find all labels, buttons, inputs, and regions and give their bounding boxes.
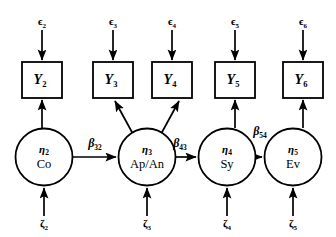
path-label-beta54: β54 xyxy=(252,124,267,139)
sem-path-diagram: Y2 Y3 Y4 Y5 Y6 η2 Co η3 Ap/An η4 Sy η5 E… xyxy=(0,0,336,237)
error-label-eps4: ϵ4 xyxy=(168,15,177,30)
error-label-eps2: ϵ2 xyxy=(38,15,47,30)
diagram-canvas: Y2 Y3 Y4 Y5 Y6 η2 Co η3 Ap/An η4 Sy η5 E… xyxy=(0,0,336,237)
disturbance-label-zeta5: ζ5 xyxy=(289,217,298,232)
loading-arrow-eta3-to-Y4 xyxy=(161,101,179,134)
latent-name-eta5: Ev xyxy=(286,157,301,171)
disturbance-label-zeta4: ζ4 xyxy=(223,217,232,232)
latent-name-eta3: Ap/An xyxy=(130,157,165,171)
disturbance-label-zeta2: ζ2 xyxy=(40,217,49,232)
disturbance-label-zeta3: ζ3 xyxy=(143,217,152,232)
error-label-eps3: ϵ3 xyxy=(109,15,118,30)
latent-name-eta2: Co xyxy=(37,157,52,171)
latent-name-eta4: Sy xyxy=(220,157,234,171)
loading-arrow-eta3-to-Y3 xyxy=(115,101,133,134)
error-label-eps5: ϵ5 xyxy=(231,15,240,30)
path-label-beta43: β43 xyxy=(172,136,187,151)
path-label-beta32: β32 xyxy=(87,136,102,151)
error-label-eps6: ϵ6 xyxy=(299,15,308,30)
